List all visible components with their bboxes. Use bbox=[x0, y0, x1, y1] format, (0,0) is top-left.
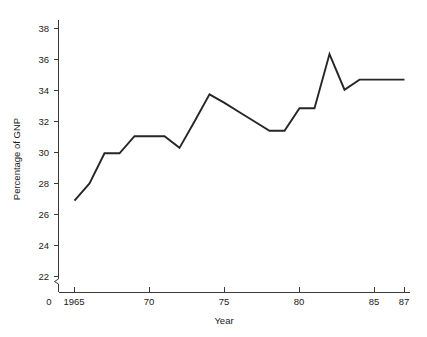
y-axis-title: Percentage of GNP bbox=[11, 118, 22, 200]
x-tick-label-87: 87 bbox=[399, 296, 410, 307]
x-axis-tick-labels: 1965 70 75 80 85 87 0 bbox=[46, 296, 409, 307]
y-tick-label-22: 22 bbox=[38, 271, 49, 282]
x-tick-label-85: 85 bbox=[369, 296, 380, 307]
y-tick-label-38: 38 bbox=[38, 23, 49, 34]
y-tick-label-26: 26 bbox=[38, 209, 49, 220]
y-tick-label-28: 28 bbox=[38, 178, 49, 189]
line-chart: 38 36 34 32 30 28 26 24 22 1965 70 75 80… bbox=[0, 0, 427, 337]
y-axis-break-icon bbox=[55, 275, 59, 292]
y-tick-label-30: 30 bbox=[38, 147, 49, 158]
x-tick-label-75: 75 bbox=[219, 296, 230, 307]
x-axis-ticks bbox=[75, 287, 405, 293]
y-tick-label-24: 24 bbox=[38, 240, 49, 251]
axis-origin-label: 0 bbox=[46, 296, 51, 307]
y-tick-label-34: 34 bbox=[38, 85, 49, 96]
y-tick-label-36: 36 bbox=[38, 54, 49, 65]
y-axis-tick-labels: 38 36 34 32 30 28 26 24 22 bbox=[38, 23, 49, 282]
x-axis-title: Year bbox=[214, 315, 233, 326]
x-tick-label-70: 70 bbox=[144, 296, 155, 307]
y-axis-ticks bbox=[54, 29, 59, 277]
y-tick-label-32: 32 bbox=[38, 116, 49, 127]
x-tick-label-1965: 1965 bbox=[63, 296, 84, 307]
x-tick-label-80: 80 bbox=[294, 296, 305, 307]
data-series-line bbox=[75, 54, 405, 200]
chart-container: 38 36 34 32 30 28 26 24 22 1965 70 75 80… bbox=[0, 0, 427, 337]
